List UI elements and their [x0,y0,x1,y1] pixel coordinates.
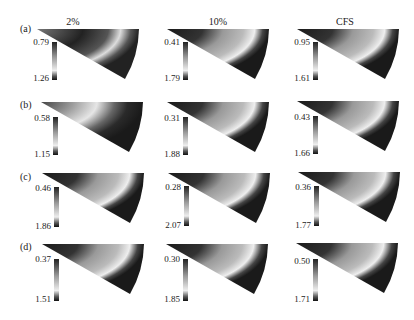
colorbar-max-label: 0.46 [27,183,51,193]
column-header-2pct: 2% [43,16,103,27]
colorbar-a-10pct [183,42,188,80]
colorbar-b-2pct [53,117,58,155]
panel-d-10pct [166,244,270,296]
column-header-cfs: CFS [315,16,375,27]
colorbar-c-10pct [184,186,189,226]
colorbar-d-2pct [54,259,59,301]
colorbar-a-cfs [313,42,318,80]
colorbar-max-label: 0.50 [286,256,310,266]
row-label-b: (b) [20,99,32,110]
colorbar-min-label: 1.77 [287,220,311,230]
column-header-10pct: 10% [188,16,248,27]
row-label-d: (d) [20,241,32,252]
colorbar-d-cfs [313,259,318,301]
colorbar-max-label: 0.58 [26,113,50,123]
colorbar-max-label: 0.30 [156,254,180,264]
colorbar-min-label: 1.51 [27,294,51,304]
colorbar-max-label: 0.31 [156,113,180,123]
colorbar-min-label: 1.26 [25,73,49,83]
colorbar-min-label: 1.85 [156,294,180,304]
colorbar-max-label: 0.36 [287,182,311,192]
colorbar-min-label: 1.71 [286,294,310,304]
colorbar-c-cfs [314,186,319,226]
colorbar-max-label: 0.41 [156,37,180,47]
colorbar-a-2pct [52,42,57,80]
colorbar-min-label: 1.79 [156,73,180,83]
colorbar-b-10pct [183,117,188,155]
row-label-c: (c) [20,171,31,182]
colorbar-b-cfs [313,116,318,154]
colorbar-min-label: 1.61 [286,73,310,83]
colorbar-c-2pct [54,187,59,227]
colorbar-max-label: 0.43 [286,112,310,122]
colorbar-d-10pct [183,259,188,301]
row-label-a: (a) [20,23,31,34]
colorbar-max-label: 0.37 [27,254,51,264]
panel-d-cfs [296,243,400,295]
colorbar-min-label: 1.66 [286,148,310,158]
colorbar-max-label: 0.95 [286,37,310,47]
colorbar-max-label: 0.28 [157,182,181,192]
colorbar-max-label: 0.79 [25,37,49,47]
colorbar-min-label: 2.07 [157,220,181,230]
colorbar-min-label: 1.15 [26,149,50,159]
colorbar-min-label: 1.88 [156,149,180,159]
colorbar-min-label: 1.86 [27,221,51,231]
